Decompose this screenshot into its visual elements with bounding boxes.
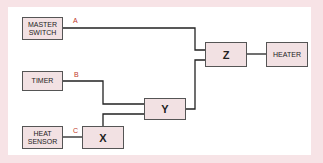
line-label-c: C bbox=[73, 127, 78, 134]
wire-y-z bbox=[185, 60, 205, 109]
line-label-a: A bbox=[73, 17, 78, 24]
wire-a bbox=[62, 28, 205, 50]
heat-sensor-label: HEAT SENSOR bbox=[23, 130, 62, 146]
wire-b bbox=[62, 81, 144, 104]
gate-y: Y bbox=[144, 98, 186, 120]
gate-x-label: X bbox=[99, 134, 106, 142]
gate-y-label: Y bbox=[161, 105, 168, 113]
timer-box: TIMER bbox=[22, 71, 63, 91]
gate-z: Z bbox=[205, 42, 247, 67]
gate-z-label: Z bbox=[223, 51, 230, 59]
gate-x: X bbox=[82, 126, 124, 149]
timer-label: TIMER bbox=[32, 77, 54, 85]
wire-x-y bbox=[103, 114, 144, 126]
master-switch-box: MASTER SWITCH bbox=[22, 17, 63, 40]
heater-label: HEATER bbox=[273, 51, 301, 59]
heat-sensor-box: HEAT SENSOR bbox=[22, 126, 63, 149]
line-label-b: B bbox=[74, 71, 79, 78]
heater-box: HEATER bbox=[266, 42, 308, 67]
master-switch-label: MASTER SWITCH bbox=[23, 21, 62, 37]
